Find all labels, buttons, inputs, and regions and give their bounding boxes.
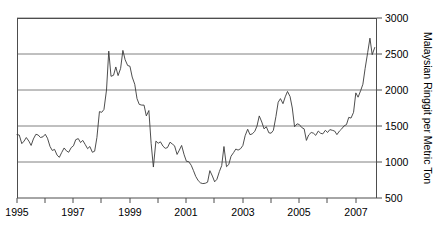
- x-axis-label-1995: 1995: [5, 206, 29, 218]
- chart-background: [0, 0, 433, 236]
- y-axis-title: Malaysian Ringgit per Metric Ton: [422, 32, 433, 184]
- x-axis-label-2003: 2003: [231, 206, 255, 218]
- chart-page: 3000 2500 2000 1500 1000 500 1995 1997: [0, 0, 433, 236]
- y-axis-label-500: 500: [385, 192, 403, 204]
- x-axis-label-1997: 1997: [61, 206, 85, 218]
- x-axis-label-2007: 2007: [344, 206, 368, 218]
- y-axis-label-1500: 1500: [385, 120, 409, 132]
- y-axis-label-3000: 3000: [385, 12, 409, 24]
- x-axis-label-2001: 2001: [174, 206, 198, 218]
- x-axis-label-1999: 1999: [118, 206, 142, 218]
- y-axis-label-1000: 1000: [385, 156, 409, 168]
- y-axis-label-2000: 2000: [385, 84, 409, 96]
- price-line-chart: 3000 2500 2000 1500 1000 500 1995 1997: [0, 0, 433, 236]
- y-axis-label-2500: 2500: [385, 48, 409, 60]
- x-axis-label-2005: 2005: [287, 206, 311, 218]
